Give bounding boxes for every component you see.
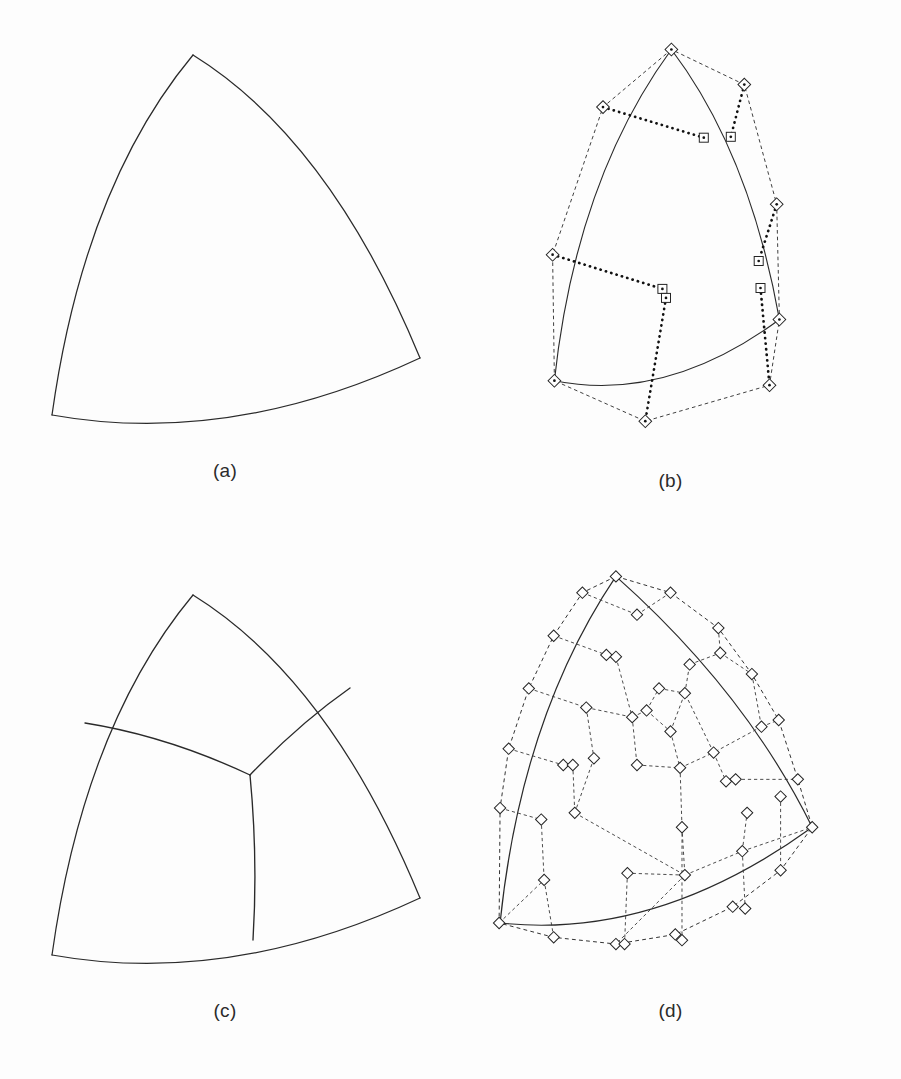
mesh-edge bbox=[742, 813, 747, 851]
boundary-top-right-edge bbox=[193, 55, 420, 358]
mesh-edge bbox=[544, 880, 554, 937]
diamond-marker bbox=[610, 651, 621, 662]
diamond-marker bbox=[493, 917, 504, 928]
panel-c-drawing bbox=[0, 540, 450, 990]
mesh-edge bbox=[500, 808, 541, 819]
panel-c bbox=[0, 540, 450, 990]
domain-outline-a bbox=[52, 55, 420, 423]
boundary-bottom-edge bbox=[52, 898, 420, 963]
diamond-marker bbox=[536, 814, 547, 825]
interior-markers-d bbox=[536, 609, 768, 914]
mesh-edge bbox=[586, 708, 632, 718]
boundary-markers-d bbox=[493, 571, 817, 950]
marker-center-dot bbox=[757, 260, 760, 263]
diamond-marker bbox=[548, 932, 559, 943]
diamond-marker bbox=[622, 868, 633, 879]
panel-d bbox=[440, 540, 901, 990]
diamond-marker bbox=[737, 845, 748, 856]
diamond-marker bbox=[523, 683, 534, 694]
interior-edge-5 bbox=[759, 204, 777, 261]
interior-edge-1 bbox=[603, 107, 704, 138]
boundary-top-right-edge bbox=[616, 576, 812, 827]
boundary-bottom-edge bbox=[500, 827, 812, 925]
panel-d-label: (d) bbox=[440, 1000, 901, 1022]
diamond-marker bbox=[676, 822, 687, 833]
mesh-edge bbox=[685, 851, 742, 875]
interior-edge-4 bbox=[645, 298, 666, 421]
diamond-marker bbox=[713, 622, 724, 633]
diamond-marker bbox=[494, 802, 505, 813]
mesh-edge bbox=[671, 693, 685, 731]
interior-edge-3 bbox=[553, 255, 663, 289]
diamond-marker bbox=[674, 762, 685, 773]
mesh-edge bbox=[714, 727, 762, 753]
diamond-marker bbox=[807, 822, 818, 833]
marker-center-dot bbox=[661, 288, 664, 291]
panel-b bbox=[440, 0, 901, 450]
diamond-marker bbox=[627, 711, 638, 722]
marker-center-dot bbox=[743, 83, 746, 86]
diamond-marker bbox=[631, 609, 642, 620]
partition-left-branch bbox=[85, 723, 250, 775]
mesh-edge bbox=[529, 688, 586, 707]
diamond-marker bbox=[653, 683, 664, 694]
interior-edge-6 bbox=[761, 288, 770, 385]
mesh-edge bbox=[720, 653, 752, 674]
diamond-marker bbox=[619, 938, 630, 949]
partition-upper-right-branch bbox=[250, 688, 350, 775]
mesh-edge bbox=[575, 813, 685, 875]
mesh-edge bbox=[680, 768, 682, 827]
diamond-marker bbox=[503, 743, 514, 754]
mesh-edge bbox=[616, 657, 632, 717]
diamond-marker bbox=[715, 647, 726, 658]
boundary-top-right-edge bbox=[193, 595, 420, 898]
partition-curves-c bbox=[85, 688, 350, 940]
panel-a-drawing bbox=[0, 0, 450, 450]
mesh-edge bbox=[680, 753, 714, 768]
mesh-edge bbox=[509, 749, 564, 765]
mesh-edge bbox=[554, 636, 607, 655]
mesh-edge bbox=[637, 765, 680, 768]
figure-root: (a) bbox=[0, 0, 901, 1079]
diamond-marker bbox=[727, 901, 738, 912]
marker-center-dot bbox=[778, 318, 781, 321]
panel-c-label: (c) bbox=[0, 1000, 450, 1022]
interior-edge-2 bbox=[731, 85, 745, 137]
mesh-edge bbox=[742, 851, 745, 908]
diamond-marker bbox=[684, 659, 695, 670]
mesh-edge bbox=[632, 717, 637, 765]
diamond-marker bbox=[773, 714, 784, 725]
diamond-marker bbox=[739, 903, 750, 914]
marker-center-dot bbox=[729, 135, 732, 138]
diamond-marker bbox=[569, 807, 580, 818]
interior-control-edges-b bbox=[553, 85, 777, 422]
partition-lower-branch bbox=[250, 775, 255, 940]
diamond-marker bbox=[679, 869, 690, 880]
boundary-bottom-edge bbox=[52, 358, 420, 423]
diamond-marker bbox=[588, 753, 599, 764]
mesh-edge bbox=[541, 820, 544, 880]
boundary-left-edge bbox=[52, 55, 193, 415]
diamond-marker bbox=[679, 688, 690, 699]
diamond-marker bbox=[601, 649, 612, 660]
diamond-marker bbox=[730, 774, 741, 785]
mesh-edge bbox=[573, 765, 575, 813]
marker-center-dot bbox=[759, 287, 762, 290]
mesh-edge bbox=[752, 674, 762, 727]
mesh-edge bbox=[647, 710, 671, 731]
diamond-marker bbox=[548, 630, 559, 641]
marker-center-dot bbox=[602, 106, 605, 109]
diamond-marker bbox=[741, 807, 752, 818]
control-polygon-b bbox=[553, 50, 780, 422]
panel-a bbox=[0, 0, 450, 450]
mesh-edge bbox=[582, 593, 637, 615]
diamond-marker bbox=[665, 587, 676, 598]
interior-markers-b bbox=[658, 132, 765, 302]
diamond-marker bbox=[746, 668, 757, 679]
mesh-edge bbox=[627, 873, 684, 875]
marker-center-dot bbox=[665, 297, 668, 300]
marker-center-dot bbox=[775, 203, 778, 206]
marker-center-dot bbox=[644, 420, 647, 423]
panel-b-label: (b) bbox=[440, 470, 901, 492]
mesh-edge bbox=[685, 693, 714, 752]
